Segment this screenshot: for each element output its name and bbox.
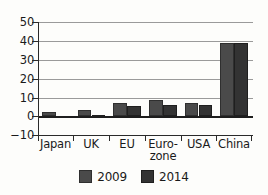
x-axis-label-uk: UK [73, 139, 109, 151]
bar-usa-2014 [199, 105, 213, 116]
bar-japan-2014 [56, 116, 70, 118]
chart-legend: 2009 2014 [0, 170, 268, 183]
y-axis-label-neg10: −10 [0, 130, 34, 141]
x-axis-label-japan: Japan [38, 139, 73, 151]
x-axis-label-usa: USA [181, 139, 216, 151]
y-axis-label-10: 10 [0, 93, 34, 104]
legend-label-2014: 2014 [159, 171, 189, 183]
gridline-neg10 [39, 135, 253, 136]
y-axis-label-40: 40 [0, 36, 34, 47]
bars-layer [38, 22, 252, 135]
x-axis-label-eurozone: Euro- zone [145, 139, 181, 162]
bar-eurozone-2014 [163, 105, 177, 116]
bar-usa-2009 [185, 103, 199, 116]
bar-uk-2014 [92, 115, 106, 117]
bar-china-2009 [220, 43, 234, 116]
x-axis-label-eu: EU [109, 139, 145, 151]
y-axis-label-20: 20 [0, 74, 34, 85]
bar-chart: 50 40 30 20 10 0 −10 Japan UK EU Euro- z… [0, 0, 268, 195]
y-axis-label-30: 30 [0, 55, 34, 66]
bar-uk-2009 [78, 110, 92, 117]
legend-swatch-icon-2014 [141, 170, 154, 183]
x-axis-label-china: China [216, 139, 252, 151]
legend-item-2014[interactable]: 2014 [141, 170, 189, 183]
y-axis-label-0: 0 [0, 111, 34, 122]
bar-china-2014 [234, 43, 248, 116]
y-axis-label-50: 50 [0, 17, 34, 28]
bar-eu-2009 [113, 103, 127, 116]
legend-item-2009[interactable]: 2009 [79, 170, 127, 183]
legend-label-2009: 2009 [97, 171, 127, 183]
bar-japan-2009 [42, 112, 56, 116]
bar-eurozone-2009 [149, 100, 163, 116]
bar-eu-2014 [127, 106, 141, 116]
legend-swatch-icon-2009 [79, 170, 92, 183]
